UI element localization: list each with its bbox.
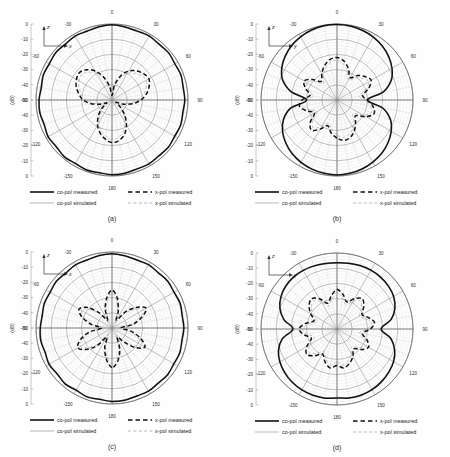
radial-axis-label: (dB) [9, 95, 15, 105]
legend-label: co-pol simulated [282, 200, 321, 206]
legend-label: co-pol simulated [57, 428, 96, 434]
angular-tick-label: 30 [378, 251, 384, 256]
angular-tick-label: -150 [288, 403, 298, 408]
angular-tick-label: -60 [32, 282, 39, 287]
radial-tick-label: -10 [21, 159, 28, 164]
radial-tick-label: -30 [21, 356, 28, 361]
radial-tick-label: -20 [246, 372, 253, 377]
angular-tick-label: -60 [257, 283, 264, 288]
angular-tick-label: 90 [422, 98, 428, 103]
legend-label: co-pol simulated [57, 200, 96, 206]
angular-tick-label: -150 [63, 402, 73, 407]
radial-tick-label: -10 [246, 37, 253, 42]
angular-tick-label: -90 [246, 327, 253, 332]
angular-tick-label: 120 [184, 370, 192, 375]
radial-tick-label: -10 [246, 159, 253, 164]
axis-vertical-label: z [271, 24, 275, 30]
angular-tick-label: 150 [152, 402, 160, 407]
polar-plot-panel-c: 0-10-20-30-40-50-40-30-20-100(dB)0306090… [0, 228, 225, 456]
radial-tick-label: 0 [25, 22, 28, 27]
radial-tick-label: -30 [246, 296, 253, 301]
angular-tick-label: -150 [288, 174, 298, 179]
radial-tick-label: 0 [250, 403, 253, 408]
radial-tick-label: -40 [246, 83, 253, 88]
radial-tick-label: -10 [246, 388, 253, 393]
radial-tick-label: -10 [246, 266, 253, 271]
angular-tick-label: -30 [290, 22, 297, 27]
polar-plot-svg-d: 0-10-20-30-40-50-40-30-20-100(dB)0306090… [225, 229, 450, 457]
radial-tick-label: -40 [246, 312, 253, 317]
radial-tick-label: -20 [246, 52, 253, 57]
angular-tick-label: -90 [246, 98, 253, 103]
radial-tick-label: -30 [21, 128, 28, 133]
legend-label: x-pol simulated [380, 429, 416, 435]
legend-label: x-pol measured [380, 418, 417, 424]
radial-tick-label: -10 [21, 387, 28, 392]
radial-tick-label: -40 [246, 113, 253, 118]
angular-tick-label: 180 [333, 415, 341, 420]
legend-label: x-pol measured [155, 417, 192, 423]
angular-tick-label: -90 [21, 326, 28, 331]
radial-tick-label: 0 [25, 174, 28, 179]
radial-axis-label: (dB) [234, 324, 240, 334]
radiation-pattern-figure: 0-10-20-30-40-50-40-30-20-100(dB)0306090… [0, 0, 450, 457]
axis-vertical-label: z [46, 252, 50, 258]
angular-tick-label: -60 [257, 54, 264, 59]
legend-label: co-pol measured [57, 417, 97, 423]
radial-tick-label: -20 [21, 52, 28, 57]
radial-tick-label: -40 [21, 113, 28, 118]
radial-tick-label: -30 [246, 128, 253, 133]
angular-tick-label: 120 [184, 142, 192, 147]
angular-tick-label: 120 [409, 142, 417, 147]
polar-plot-panel-a: 0-10-20-30-40-50-40-30-20-100(dB)0306090… [0, 0, 225, 228]
angular-tick-label: 90 [197, 326, 203, 331]
radial-tick-label: -30 [21, 67, 28, 72]
axis-horizontal-label: x [68, 43, 72, 49]
angular-tick-label: -120 [31, 142, 41, 147]
radial-tick-label: -40 [21, 341, 28, 346]
polar-plot-svg-c: 0-10-20-30-40-50-40-30-20-100(dB)0306090… [0, 228, 225, 456]
angular-tick-label: 30 [378, 22, 384, 27]
legend-label: x-pol simulated [380, 200, 416, 206]
polar-plot-panel-b: 0-10-20-30-40-50-40-30-20-100(dB)0306090… [225, 0, 450, 228]
angular-tick-label: 150 [377, 174, 385, 179]
angular-tick-label: -60 [32, 54, 39, 59]
angular-tick-label: -30 [290, 251, 297, 256]
axis-vertical-label: z [46, 24, 50, 30]
angular-tick-label: 180 [108, 186, 116, 191]
angular-tick-label: -90 [21, 98, 28, 103]
panel-caption-a: (a) [108, 215, 117, 223]
angular-tick-label: -120 [256, 142, 266, 147]
angular-tick-label: 60 [411, 283, 417, 288]
legend-label: x-pol simulated [155, 428, 191, 434]
angular-tick-label: 180 [108, 414, 116, 419]
radial-tick-label: -20 [246, 143, 253, 148]
angular-tick-label: 0 [336, 239, 339, 244]
axis-horizontal-label: x [68, 271, 72, 277]
angular-tick-label: 60 [411, 54, 417, 59]
radial-tick-label: -20 [246, 281, 253, 286]
angular-tick-label: 60 [186, 282, 192, 287]
angular-tick-label: 120 [409, 371, 417, 376]
angular-tick-label: 30 [153, 250, 159, 255]
radial-tick-label: -20 [21, 371, 28, 376]
angular-tick-label: 180 [333, 186, 341, 191]
polar-plot-svg-b: 0-10-20-30-40-50-40-30-20-100(dB)0306090… [225, 0, 450, 228]
angular-tick-label: 90 [197, 98, 203, 103]
angular-tick-label: -150 [63, 174, 73, 179]
legend-label: co-pol measured [57, 189, 97, 195]
radial-tick-label: -30 [246, 357, 253, 362]
radial-axis-label: (dB) [234, 95, 240, 105]
radial-tick-label: -40 [21, 83, 28, 88]
angular-tick-label: 0 [111, 238, 114, 243]
polar-plot-svg-a: 0-10-20-30-40-50-40-30-20-100(dB)0306090… [0, 0, 225, 228]
legend-label: co-pol simulated [282, 429, 321, 435]
panel-caption-d: (d) [333, 444, 342, 452]
panel-caption-b: (b) [333, 215, 342, 223]
radial-tick-label: -30 [21, 295, 28, 300]
legend-label: x-pol measured [380, 189, 417, 195]
radial-tick-label: -20 [21, 143, 28, 148]
radial-tick-label: 0 [250, 22, 253, 27]
radial-tick-label: -10 [21, 37, 28, 42]
radial-tick-label: 0 [250, 174, 253, 179]
